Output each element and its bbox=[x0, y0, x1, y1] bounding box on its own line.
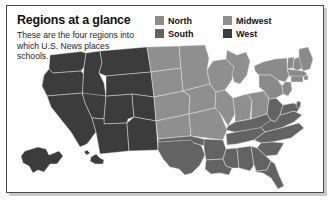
legend-item-midwest[interactable]: Midwest bbox=[223, 16, 303, 26]
state-wyoming bbox=[106, 72, 154, 97]
legend-label-south: South bbox=[168, 29, 194, 39]
state-north-dakota bbox=[147, 46, 181, 72]
state-new-mexico bbox=[127, 117, 158, 151]
state-vermont bbox=[287, 57, 294, 69]
state-delaware bbox=[296, 101, 301, 108]
state-connecticut bbox=[291, 76, 303, 82]
legend-swatch-south-icon bbox=[155, 29, 164, 38]
state-utah bbox=[104, 94, 134, 124]
us-map-svg bbox=[11, 44, 321, 190]
state-arkansas bbox=[204, 139, 226, 160]
legend-label-west: West bbox=[236, 29, 257, 39]
state-rhode-island bbox=[304, 75, 308, 80]
legend-item-north[interactable]: North bbox=[155, 16, 223, 26]
legend-label-north: North bbox=[168, 16, 192, 26]
state-montana bbox=[99, 47, 151, 76]
state-alaska bbox=[21, 147, 63, 173]
legend-swatch-midwest-icon bbox=[223, 16, 232, 25]
legend-swatch-west-icon bbox=[223, 29, 232, 38]
page-title: Regions at a glance bbox=[17, 13, 131, 27]
legend-swatch-north-icon bbox=[155, 16, 164, 25]
state-indiana bbox=[233, 94, 252, 122]
legend: North Midwest South West bbox=[155, 14, 315, 40]
legend-label-midwest: Midwest bbox=[236, 16, 272, 26]
state-mississippi bbox=[223, 148, 239, 168]
infographic-root: Regions at a glance These are the four r… bbox=[0, 0, 332, 204]
state-minnesota bbox=[179, 45, 210, 91]
legend-item-south[interactable]: South bbox=[155, 29, 223, 39]
state-oregon bbox=[42, 69, 84, 96]
legend-item-west[interactable]: West bbox=[223, 29, 303, 39]
state-washington bbox=[49, 52, 86, 74]
regions-card: Regions at a glance These are the four r… bbox=[6, 5, 324, 193]
us-region-map bbox=[11, 44, 321, 190]
state-colorado bbox=[132, 94, 156, 121]
region-west bbox=[21, 47, 158, 173]
state-new-jersey bbox=[282, 82, 292, 96]
